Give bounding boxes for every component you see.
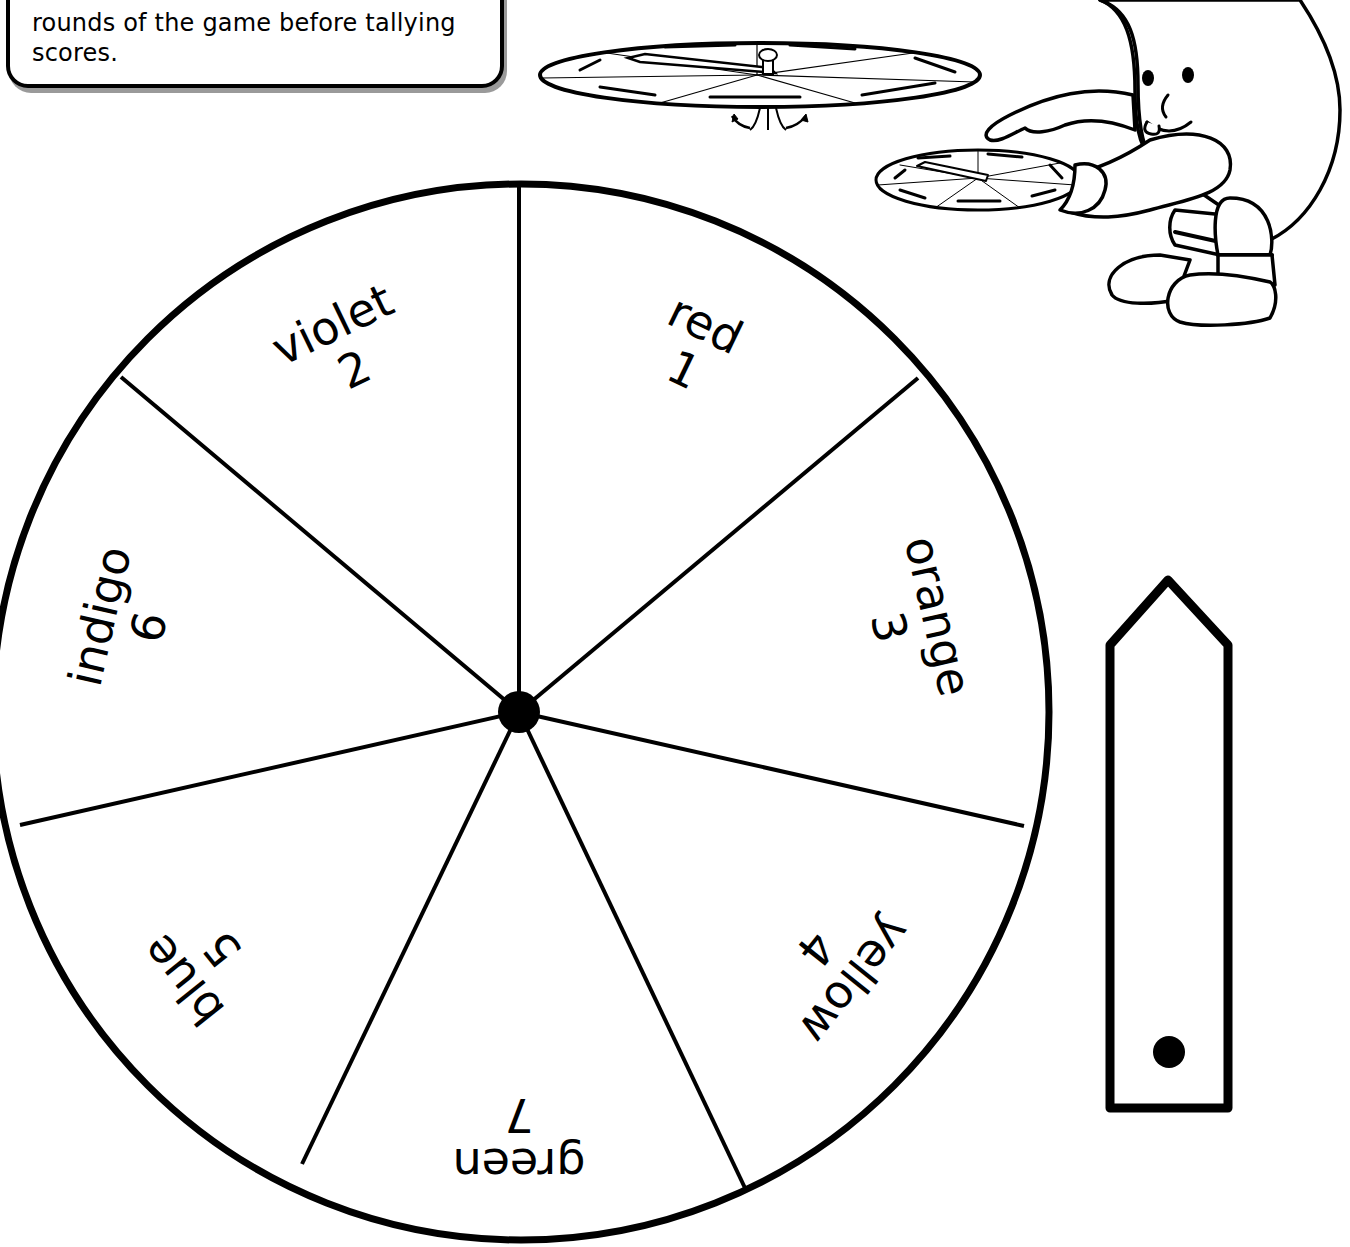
wheel-center-hole [498, 691, 540, 733]
worksheet-drawing [0, 0, 1350, 1247]
sector-label-green: green 7 [409, 1090, 629, 1190]
sector-number-green: 7 [409, 1090, 629, 1140]
pointer-cutout [1110, 580, 1228, 1108]
sector-color-green: green [453, 1138, 586, 1192]
spinner-diagram-illustration [540, 43, 980, 130]
pointer-hole [1153, 1036, 1185, 1068]
mascot-illustration [876, 0, 1340, 325]
